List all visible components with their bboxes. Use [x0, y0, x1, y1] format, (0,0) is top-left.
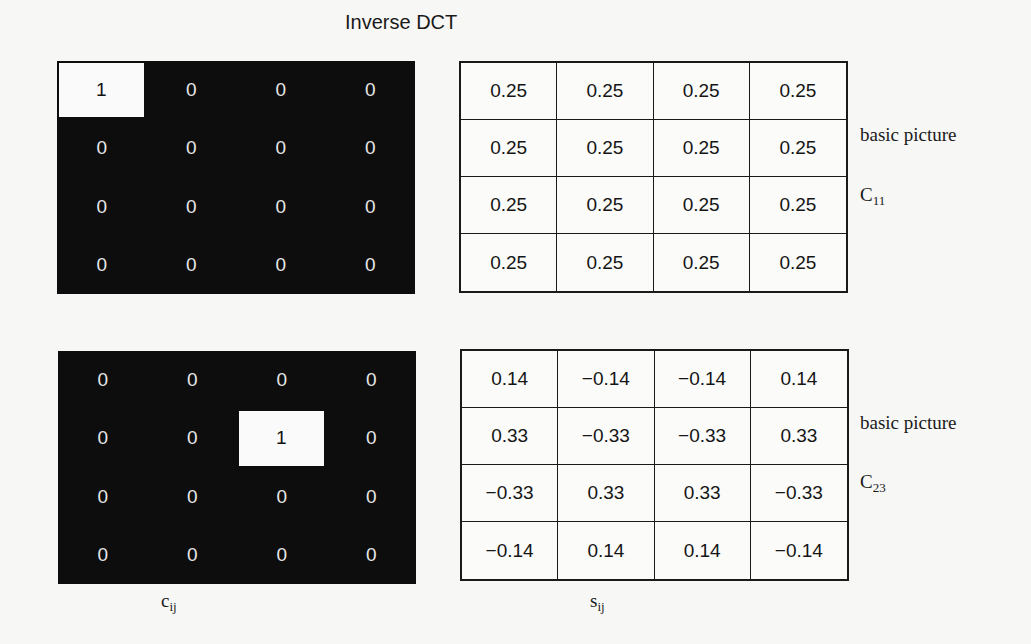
pixel-value-cell: 0.33 [462, 408, 558, 465]
coefficient-cell: 0 [57, 236, 147, 294]
coefficient-matrix-c11: 1000000000000000 [57, 61, 415, 294]
coefficient-cell: 0 [237, 351, 327, 409]
basis-label-c11: basic picture [860, 124, 957, 146]
diagram-title: Inverse DCT [345, 11, 457, 34]
coefficient-cell: 0 [327, 351, 417, 409]
pixel-value-cell: 0.33 [751, 408, 847, 465]
coefficient-cell: 0 [326, 119, 416, 177]
pixel-value-cell: 0.25 [557, 120, 653, 177]
coefficient-cell: 0 [147, 61, 237, 119]
coefficient-cell: 0 [326, 178, 416, 236]
pixel-value-cell: 0.14 [558, 522, 654, 579]
coefficient-cell: 0 [326, 61, 416, 119]
coefficient-cell: 0 [148, 468, 238, 526]
coefficient-cell: 0 [237, 468, 327, 526]
pixel-value-cell: 0.25 [461, 177, 557, 234]
coefficient-cell: 0 [327, 526, 417, 584]
basis-picture-matrix-c11: 0.250.250.250.250.250.250.250.250.250.25… [459, 61, 848, 293]
pixel-value-cell: 0.25 [461, 120, 557, 177]
pixel-value-cell: 0.14 [462, 351, 558, 408]
coefficient-cell: 0 [58, 468, 148, 526]
basis-symbol-c11: C11 [860, 184, 885, 209]
basis-symbol-c23: C23 [860, 471, 886, 496]
pixel-value-cell: 0.25 [557, 63, 653, 120]
pixel-value-cell: −0.33 [462, 465, 558, 522]
coefficient-axis-label: cij [161, 590, 177, 615]
pixel-value-cell: 0.25 [654, 63, 750, 120]
coefficient-cell: 0 [58, 351, 148, 409]
coefficient-matrix-c23: 0000001000000000 [58, 351, 416, 584]
pixel-value-cell: −0.14 [462, 522, 558, 579]
pixel-value-cell: −0.14 [655, 351, 751, 408]
coefficient-cell: 0 [236, 236, 326, 294]
coefficient-cell: 0 [148, 409, 238, 467]
pixel-value-cell: 0.33 [655, 465, 751, 522]
pixel-value-cell: −0.33 [558, 408, 654, 465]
pixel-value-cell: −0.33 [655, 408, 751, 465]
pixel-value-cell: −0.14 [751, 522, 847, 579]
active-coefficient-cell: 1 [239, 411, 324, 465]
coefficient-cell: 0 [327, 409, 417, 467]
coefficient-cell: 0 [327, 468, 417, 526]
pixel-value-cell: −0.14 [558, 351, 654, 408]
coefficient-cell: 0 [236, 61, 326, 119]
coefficient-cell: 0 [236, 178, 326, 236]
pixel-value-cell: 0.14 [655, 522, 751, 579]
pixel-value-cell: 0.25 [750, 177, 846, 234]
pixel-value-cell: 0.25 [461, 234, 557, 291]
pixel-value-cell: 0.25 [750, 234, 846, 291]
pixel-value-cell: 0.25 [557, 177, 653, 234]
pixel-value-cell: 0.25 [557, 234, 653, 291]
coefficient-cell: 0 [57, 119, 147, 177]
coefficient-cell: 0 [147, 236, 237, 294]
pixel-value-cell: 0.25 [654, 120, 750, 177]
coefficient-cell: 0 [236, 119, 326, 177]
coefficient-cell: 0 [58, 526, 148, 584]
basis-picture-matrix-c23: 0.14−0.14−0.140.140.33−0.33−0.330.33−0.3… [460, 349, 849, 581]
pixel-value-cell: 0.25 [750, 120, 846, 177]
coefficient-cell: 0 [57, 178, 147, 236]
coefficient-cell: 0 [148, 526, 238, 584]
pixel-value-cell: 0.25 [654, 177, 750, 234]
coefficient-cell: 0 [147, 178, 237, 236]
coefficient-cell: 0 [147, 119, 237, 177]
coefficient-cell: 0 [58, 409, 148, 467]
pixel-value-cell: 0.25 [461, 63, 557, 120]
pixel-axis-label: sij [590, 590, 605, 615]
pixel-value-cell: 0.25 [750, 63, 846, 120]
pixel-value-cell: 0.14 [751, 351, 847, 408]
basis-label-c23: basic picture [860, 412, 957, 434]
pixel-value-cell: 0.33 [558, 465, 654, 522]
coefficient-cell: 0 [326, 236, 416, 294]
active-coefficient-cell: 1 [59, 63, 144, 117]
pixel-value-cell: 0.25 [654, 234, 750, 291]
coefficient-cell: 0 [148, 351, 238, 409]
coefficient-cell: 0 [237, 526, 327, 584]
pixel-value-cell: −0.33 [751, 465, 847, 522]
